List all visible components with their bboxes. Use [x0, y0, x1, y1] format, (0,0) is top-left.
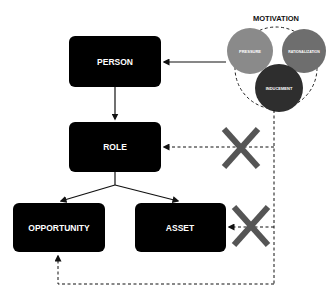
- edge-role-split: [61, 172, 178, 201]
- edge-motivation-to-opportunity-dashed: [58, 256, 274, 284]
- node-opportunity: OPPORTUNITY: [13, 203, 105, 252]
- pressure-circle: PRESSURE: [227, 28, 273, 74]
- blocked-cross-icon: [234, 207, 268, 245]
- inducement-label: INDUCEMENT: [266, 86, 293, 91]
- person-label: PERSON: [97, 57, 133, 67]
- node-role: ROLE: [69, 122, 161, 172]
- blocked-cross-icon: [224, 129, 258, 167]
- edge-role-to-opportunity: [61, 185, 115, 201]
- pressure-label: PRESSURE: [239, 49, 261, 54]
- rationalization-label: RATIONALIZATION: [288, 50, 320, 54]
- asset-label: ASSET: [166, 223, 195, 233]
- edge-role-to-asset: [115, 185, 178, 201]
- inducement-circle: INDUCEMENT: [255, 64, 303, 112]
- motivation-title: MOTIVATION: [253, 14, 299, 23]
- motivation-group: MOTIVATION PRESSURE RATIONALIZATION INDU…: [227, 14, 326, 112]
- diagram-canvas: MOTIVATION PRESSURE RATIONALIZATION INDU…: [0, 0, 328, 300]
- role-label: ROLE: [103, 142, 127, 152]
- node-person: PERSON: [69, 36, 161, 87]
- node-asset: ASSET: [135, 203, 226, 252]
- opportunity-label: OPPORTUNITY: [28, 223, 90, 233]
